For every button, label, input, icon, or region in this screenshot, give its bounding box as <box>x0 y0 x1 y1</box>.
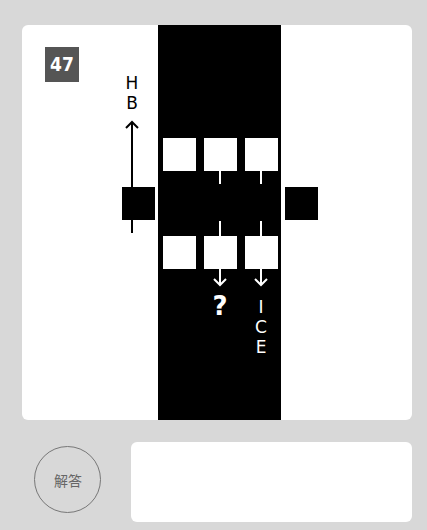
top-square-3 <box>245 138 278 171</box>
puzzle-card: 47 H B ? I C E <box>22 25 412 420</box>
top-square-1 <box>163 138 196 171</box>
letter-h: H <box>122 73 142 93</box>
connector-top-3 <box>260 171 262 184</box>
bottom-square-1 <box>163 236 196 269</box>
down-arrow-icon <box>254 277 268 287</box>
connector-top-2 <box>219 171 221 184</box>
puzzle-number-badge: 47 <box>45 47 79 82</box>
bottom-square-3 <box>245 236 278 269</box>
down-arrow-icon <box>213 277 227 287</box>
letter-i: I <box>251 297 271 317</box>
connector-bottom-2 <box>219 221 221 236</box>
bottom-square-2 <box>204 236 237 269</box>
answer-label: 解答 <box>54 470 82 490</box>
letter-e: E <box>251 337 271 357</box>
up-arrow-icon <box>125 120 139 130</box>
left-black-square <box>122 187 155 220</box>
top-square-2 <box>204 138 237 171</box>
question-mark: ? <box>205 291 235 321</box>
connector-bottom-3 <box>260 221 262 236</box>
answer-label-circle: 解答 <box>34 446 101 513</box>
letter-b: B <box>122 93 142 113</box>
right-black-square <box>285 187 318 220</box>
letter-c: C <box>251 317 271 337</box>
answer-input-box[interactable] <box>131 442 412 522</box>
